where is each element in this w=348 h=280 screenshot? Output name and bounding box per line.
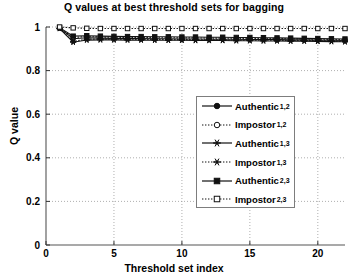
marker-square — [85, 34, 89, 38]
marker-square — [234, 35, 238, 39]
legend-item: Impostor1,2 — [197, 116, 294, 135]
marker-square — [261, 35, 265, 39]
legend-symbol — [200, 119, 234, 131]
x-tick-label: 15 — [244, 248, 256, 259]
marker-square — [329, 37, 333, 41]
marker-star — [213, 159, 221, 165]
legend-symbol — [200, 175, 234, 187]
legend-symbol — [200, 137, 234, 149]
marker-square — [166, 35, 170, 39]
legend-label: Impostor — [235, 157, 276, 168]
marker-square — [85, 26, 89, 30]
marker-square — [125, 26, 129, 30]
marker-square — [329, 26, 333, 30]
marker-square — [71, 26, 75, 30]
marker-square — [275, 36, 279, 40]
y-tick-label: 0.6 — [26, 109, 40, 120]
marker-square — [57, 25, 61, 29]
marker-star — [213, 140, 221, 146]
x-tick-label: 20 — [312, 248, 324, 259]
marker-square — [261, 26, 265, 30]
legend-subscript: 2,3 — [280, 177, 290, 184]
legend-symbol — [200, 193, 234, 205]
marker-square — [125, 34, 129, 38]
marker-square — [166, 26, 170, 30]
marker-square — [343, 37, 347, 41]
marker-square — [220, 35, 224, 39]
legend-label: Impostor — [235, 119, 276, 130]
x-tick-label: 0 — [43, 248, 49, 259]
marker-square — [98, 34, 102, 38]
legend-item: Impostor2,3 — [197, 190, 294, 209]
marker-square — [139, 34, 143, 38]
marker-square — [234, 26, 238, 30]
legend-symbol — [200, 100, 234, 112]
y-tick-label: 0.8 — [26, 65, 40, 76]
marker-square — [220, 26, 224, 30]
marker-square — [193, 26, 197, 30]
plot-area: 00.20.40.60.8105101520 — [0, 0, 348, 280]
series-impostor-2-3 — [57, 25, 347, 31]
marker-square — [275, 26, 279, 30]
legend-label: Impostor — [235, 194, 276, 205]
marker-square — [153, 26, 157, 30]
marker-square — [112, 34, 116, 38]
marker-square — [302, 26, 306, 30]
legend-subscript: 1,3 — [280, 140, 290, 147]
marker-square — [316, 36, 320, 40]
marker-circle — [214, 104, 220, 110]
legend-subscript: 1,2 — [280, 103, 290, 110]
marker-circle — [214, 122, 220, 128]
marker-square — [139, 26, 143, 30]
y-tick-label: 0 — [34, 240, 40, 251]
chart-figure: Q values at best threshold sets for bagg… — [0, 0, 348, 280]
y-tick-label: 0.2 — [26, 196, 40, 207]
chart-legend: Authentic1,2Impostor1,2Authentic1,3Impos… — [196, 96, 295, 208]
x-tick-label: 5 — [111, 248, 117, 259]
y-axis-label: Q value — [8, 91, 20, 161]
marker-square — [98, 26, 102, 30]
marker-square — [316, 26, 320, 30]
legend-subscript: 1,3 — [277, 159, 287, 166]
legend-subscript: 2,3 — [277, 196, 287, 203]
legend-item: Authentic2,3 — [197, 171, 294, 190]
marker-square — [343, 26, 347, 30]
legend-item: Impostor1,3 — [197, 153, 294, 172]
legend-label: Authentic — [235, 138, 279, 149]
marker-square — [193, 35, 197, 39]
legend-subscript: 1,2 — [277, 121, 287, 128]
marker-square — [71, 34, 75, 38]
y-tick-label: 0.4 — [26, 152, 40, 163]
marker-square — [112, 26, 116, 30]
legend-item: Authentic1,3 — [197, 134, 294, 153]
marker-square — [248, 26, 252, 30]
legend-item: Authentic1,2 — [197, 97, 294, 116]
marker-square — [207, 26, 211, 30]
marker-square — [207, 35, 211, 39]
marker-square — [288, 26, 292, 30]
x-axis-label: Threshold set index — [0, 262, 348, 274]
marker-square — [180, 35, 184, 39]
marker-square — [302, 36, 306, 40]
y-tick-label: 1 — [34, 22, 40, 33]
x-tick-label: 10 — [176, 248, 188, 259]
marker-square — [214, 197, 220, 203]
legend-symbol — [200, 156, 234, 168]
legend-label: Authentic — [235, 175, 279, 186]
marker-square — [288, 36, 292, 40]
marker-square — [153, 35, 157, 39]
marker-square — [180, 26, 184, 30]
legend-label: Authentic — [235, 101, 279, 112]
marker-square — [214, 178, 220, 184]
marker-square — [248, 35, 252, 39]
